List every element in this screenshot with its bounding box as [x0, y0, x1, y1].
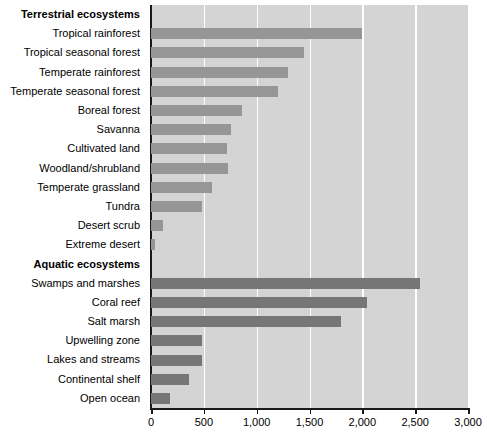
tick-label-3000: 3,000 [454, 417, 482, 428]
bar-aquatic-6 [151, 393, 170, 404]
category-label-0-9: Tundra [106, 201, 140, 212]
bar-terrestrial-9 [151, 201, 202, 212]
category-label-1-6: Open ocean [80, 393, 140, 404]
bar-aquatic-4 [151, 355, 202, 366]
bar-terrestrial-10 [151, 220, 163, 231]
tick-label-1500: 1,500 [296, 417, 324, 428]
category-label-row: Temperate rainforest [0, 63, 146, 82]
bar-row [151, 101, 242, 120]
tick-500 [204, 408, 206, 414]
bar-aquatic-2 [151, 316, 341, 327]
bar-row [151, 389, 170, 408]
bar-terrestrial-5 [151, 124, 231, 135]
tick-label-2000: 2,000 [349, 417, 377, 428]
category-label-0-5: Savanna [97, 124, 140, 135]
bar-terrestrial-7 [151, 163, 228, 174]
bar-row [151, 293, 367, 312]
gridline-1500 [310, 5, 312, 408]
category-label-0-10: Desert scrub [78, 220, 140, 231]
category-label-row: Tropical rainforest [0, 24, 146, 43]
category-label-row: Continental shelf [0, 370, 146, 389]
category-label-1-0: Swamps and marshes [31, 278, 140, 289]
tick-2500 [415, 408, 417, 414]
category-label-row: Coral reef [0, 293, 146, 312]
category-label-row: Temperate seasonal forest [0, 82, 146, 101]
gridline-3000 [468, 5, 470, 408]
section-header-1: Aquatic ecosystems [34, 259, 140, 270]
tick-1000 [257, 408, 259, 414]
bar-row [151, 82, 278, 101]
bar-row [151, 312, 341, 331]
category-label-row: Extreme desert [0, 235, 146, 254]
section-header-row: Terrestrial ecosystems [0, 5, 146, 24]
bar-row [151, 178, 212, 197]
category-label-row: Desert scrub [0, 216, 146, 235]
bar-terrestrial-11 [151, 239, 155, 250]
bar-aquatic-0 [151, 278, 420, 289]
bar-row [151, 139, 227, 158]
category-label-0-11: Extreme desert [65, 239, 140, 250]
bar-row [151, 331, 202, 350]
category-label-row: Tundra [0, 197, 146, 216]
category-label-0-3: Temperate seasonal forest [10, 86, 140, 97]
category-label-row: Swamps and marshes [0, 274, 146, 293]
bar-row [151, 197, 202, 216]
tick-3000 [468, 408, 470, 414]
bar-terrestrial-0 [151, 28, 362, 39]
bar-aquatic-1 [151, 297, 367, 308]
bar-terrestrial-4 [151, 105, 242, 116]
horizontal-bar-chart: Terrestrial ecosystemsTropical rainfores… [0, 0, 487, 445]
bar-row [151, 120, 231, 139]
gridline-2000 [362, 5, 364, 408]
category-label-0-0: Tropical rainforest [52, 28, 140, 39]
category-label-0-2: Temperate rainforest [39, 67, 140, 78]
gridline-2500 [415, 5, 417, 408]
category-label-0-6: Cultivated land [67, 143, 140, 154]
category-label-row: Lakes and streams [0, 350, 146, 369]
bar-row [151, 350, 202, 369]
category-label-1-5: Continental shelf [58, 374, 140, 385]
category-label-1-1: Coral reef [92, 297, 140, 308]
category-label-row: Temperate grassland [0, 178, 146, 197]
bar-row [151, 235, 155, 254]
bar-row [151, 159, 228, 178]
bar-row [151, 370, 189, 389]
tick-0 [151, 408, 153, 414]
category-label-1-3: Upwelling zone [65, 335, 140, 346]
category-label-0-7: Woodland/shrubland [39, 163, 140, 174]
category-label-row: Cultivated land [0, 139, 146, 158]
category-label-1-4: Lakes and streams [47, 354, 140, 365]
bar-row [151, 43, 304, 62]
bar-terrestrial-1 [151, 47, 304, 58]
category-label-row: Open ocean [0, 389, 146, 408]
bar-terrestrial-3 [151, 86, 278, 97]
tick-label-0: 0 [148, 417, 154, 428]
category-label-row: Upwelling zone [0, 331, 146, 350]
category-label-row: Savanna [0, 120, 146, 139]
bar-terrestrial-8 [151, 182, 212, 193]
bar-row [151, 216, 163, 235]
category-label-0-4: Boreal forest [78, 105, 140, 116]
bar-aquatic-3 [151, 335, 202, 346]
category-label-row: Woodland/shrubland [0, 159, 146, 178]
section-header-0: Terrestrial ecosystems [21, 9, 140, 20]
tick-label-2500: 2,500 [401, 417, 429, 428]
bar-row [151, 274, 420, 293]
category-label-1-2: Salt marsh [87, 316, 140, 327]
category-label-row: Tropical seasonal forest [0, 43, 146, 62]
tick-label-500: 500 [195, 417, 213, 428]
category-labels-column: Terrestrial ecosystemsTropical rainfores… [0, 5, 146, 408]
bar-terrestrial-6 [151, 143, 227, 154]
tick-label-1000: 1,000 [243, 417, 271, 428]
tick-1500 [310, 408, 312, 414]
category-label-row: Salt marsh [0, 312, 146, 331]
tick-2000 [362, 408, 364, 414]
bar-terrestrial-2 [151, 67, 288, 78]
bar-row [151, 24, 362, 43]
bar-aquatic-5 [151, 374, 189, 385]
section-header-row: Aquatic ecosystems [0, 254, 146, 273]
category-label-0-8: Temperate grassland [37, 182, 140, 193]
category-label-0-1: Tropical seasonal forest [24, 47, 140, 58]
bar-row [151, 63, 288, 82]
category-label-row: Boreal forest [0, 101, 146, 120]
